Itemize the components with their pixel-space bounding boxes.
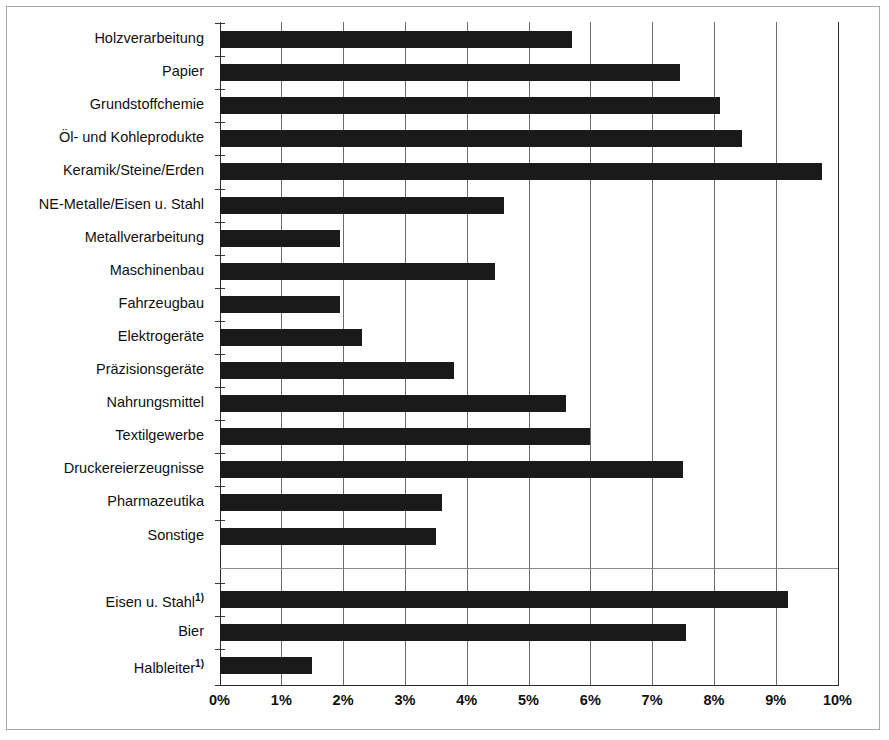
category-label: Metallverarbeitung — [85, 229, 204, 245]
bar — [220, 197, 504, 214]
x-tick-label: 10% — [823, 692, 852, 708]
bar — [220, 329, 362, 346]
footnote-marker: 1) — [195, 658, 204, 669]
category-label-column: HolzverarbeitungPapierGrundstoffchemieÖl… — [0, 22, 212, 686]
bar — [220, 428, 591, 445]
category-label: Holzverarbeitung — [94, 30, 204, 46]
x-tick-label: 4% — [456, 692, 477, 708]
x-tick-label: 1% — [271, 692, 292, 708]
bar — [220, 624, 687, 641]
gridline — [281, 22, 282, 686]
category-label: Textilgewerbe — [115, 427, 204, 443]
y-axis-tick — [215, 89, 225, 90]
y-axis-tick — [215, 23, 225, 24]
y-axis-tick — [215, 520, 225, 521]
bar — [220, 97, 721, 114]
gridline — [529, 22, 530, 686]
horizontal-bar-chart: HolzverarbeitungPapierGrundstoffchemieÖl… — [0, 0, 889, 740]
category-label: Nahrungsmittel — [106, 394, 204, 410]
category-label: Präzisionsgeräte — [96, 361, 204, 377]
y-axis-tick — [215, 387, 225, 388]
bar — [220, 494, 442, 511]
category-label: Pharmazeutika — [107, 493, 204, 509]
category-label: Elektrogeräte — [118, 328, 204, 344]
category-label: Druckereierzeugnisse — [64, 460, 204, 476]
y-axis-tick — [215, 122, 225, 123]
category-label: Sonstige — [148, 527, 204, 543]
category-label: Grundstoffchemie — [90, 96, 204, 112]
category-label: Papier — [162, 63, 204, 79]
bar — [220, 31, 572, 48]
category-label: Bier — [178, 623, 204, 639]
category-label: NE-Metalle/Eisen u. Stahl — [39, 196, 204, 212]
y-axis-tick — [215, 155, 225, 156]
group-separator-line — [220, 568, 838, 569]
bar — [220, 362, 455, 379]
x-tick-label: 2% — [333, 692, 354, 708]
bar — [220, 296, 341, 313]
x-tick-label: 7% — [642, 692, 663, 708]
category-label: Fahrzeugbau — [119, 295, 204, 311]
bar — [220, 461, 684, 478]
gridline — [838, 22, 839, 686]
y-axis-tick — [215, 321, 225, 322]
bar — [220, 528, 436, 545]
gridline — [776, 22, 777, 686]
category-label: Öl- und Kohleprodukte — [59, 129, 204, 145]
bar — [220, 395, 566, 412]
y-axis-tick — [215, 649, 225, 650]
x-axis-baseline — [220, 685, 838, 686]
y-axis-tick — [215, 255, 225, 256]
footnote-marker: 1) — [195, 592, 204, 603]
gridline — [405, 22, 406, 686]
x-tick-label: 0% — [209, 692, 230, 708]
x-tick-label: 9% — [765, 692, 786, 708]
plot-area — [220, 22, 838, 686]
y-axis-tick — [215, 420, 225, 421]
x-tick-label: 3% — [394, 692, 415, 708]
bar — [220, 591, 789, 608]
bar — [220, 263, 495, 280]
category-label: Keramik/Steine/Erden — [63, 162, 204, 178]
bar — [220, 657, 313, 674]
gridline — [714, 22, 715, 686]
y-axis-tick — [215, 453, 225, 454]
category-label: Maschinenbau — [110, 262, 204, 278]
bar — [220, 64, 680, 81]
category-label: Eisen u. Stahl1) — [106, 590, 204, 610]
bar — [220, 130, 742, 147]
y-axis-tick — [215, 486, 225, 487]
y-axis-tick — [215, 616, 225, 617]
gridline — [343, 22, 344, 686]
y-axis-tick — [215, 222, 225, 223]
bar — [220, 230, 341, 247]
gridline — [652, 22, 653, 686]
x-axis-tick-labels: 0%1%2%3%4%5%6%7%8%9%10% — [0, 692, 889, 718]
x-tick-label: 5% — [518, 692, 539, 708]
category-label: Halbleiter1) — [134, 656, 204, 676]
y-axis-tick — [215, 189, 225, 190]
y-axis-tick — [215, 288, 225, 289]
gridline — [590, 22, 591, 686]
x-tick-label: 6% — [580, 692, 601, 708]
gridline — [467, 22, 468, 686]
y-axis-tick — [215, 354, 225, 355]
x-tick-label: 8% — [703, 692, 724, 708]
bar — [220, 163, 823, 180]
y-axis-tick — [215, 583, 225, 584]
y-axis-tick — [215, 56, 225, 57]
